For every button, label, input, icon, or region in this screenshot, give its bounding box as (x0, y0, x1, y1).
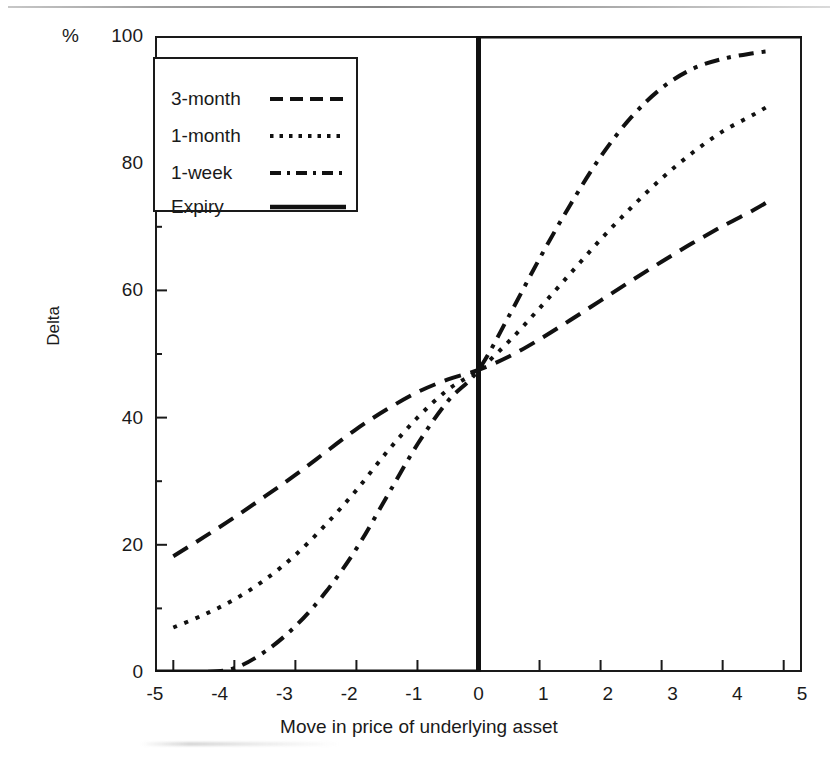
legend-entry-1-month: 1-month (171, 121, 347, 151)
legend-line-sample-solid (269, 200, 347, 214)
x-tick-label: 4 (732, 683, 743, 705)
y-tick-label: 60 (97, 279, 143, 301)
y-tick-label: 40 (97, 407, 143, 429)
y-tick-label: 20 (97, 534, 143, 556)
legend-label: 1-month (171, 125, 241, 147)
x-tick-label: -3 (276, 683, 293, 705)
legend-entry-3-month: 3-month (171, 84, 347, 114)
y-tick-label: 100 (97, 25, 143, 47)
scan-smudge-bottom (140, 742, 340, 746)
y-axis-tick-labels: 100 80 60 40 20 0 (97, 36, 143, 672)
x-tick-label: 2 (603, 683, 614, 705)
y-axis-unit-label: % (62, 25, 79, 47)
y-tick-label: 0 (97, 661, 143, 683)
legend-label: 1-week (171, 162, 232, 184)
x-tick-label: 1 (538, 683, 549, 705)
x-tick-label: -5 (147, 683, 164, 705)
x-tick-label: -2 (341, 683, 358, 705)
legend-label: 3-month (171, 88, 241, 110)
scan-rule-top (8, 6, 830, 8)
legend-entry-1-week: 1-week (171, 158, 347, 188)
x-axis-title: Move in price of underlying asset (0, 716, 838, 738)
legend-line-sample-dashed (269, 92, 347, 106)
legend-line-sample-dotted (269, 129, 347, 143)
y-axis-title: Delta (44, 266, 64, 386)
legend-label: Expiry (171, 196, 224, 218)
figure-page: % Delta 100 80 60 40 20 0 -5 -4 -3 -2 -1… (0, 0, 838, 768)
x-axis-tick-labels: -5 -4 -3 -2 -1 0 1 2 3 4 5 (155, 683, 802, 709)
x-tick-label: 0 (473, 683, 484, 705)
series-line-3-month (173, 201, 768, 556)
legend-entry-expiry: Expiry (171, 192, 347, 222)
x-tick-label: 3 (667, 683, 678, 705)
y-tick-label: 80 (97, 152, 143, 174)
x-tick-label: 5 (797, 683, 808, 705)
legend-line-sample-dash-dot (269, 166, 347, 180)
legend-box: 3-month 1-month 1-week Expiry (153, 57, 358, 212)
x-tick-label: -4 (211, 683, 228, 705)
x-tick-label: -1 (405, 683, 422, 705)
